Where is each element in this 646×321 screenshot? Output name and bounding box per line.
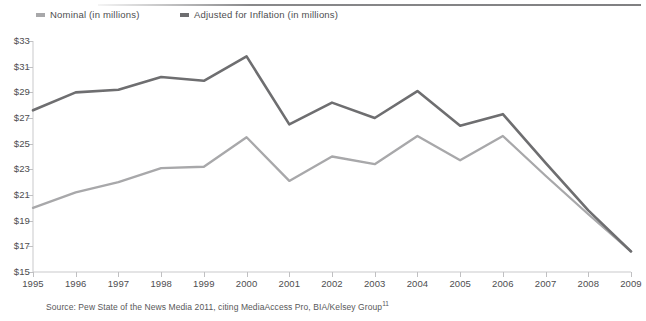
y-axis: $15$17$19$21$23$25$27$29$31$33 [0,0,30,321]
y-axis-tick-label: $31 [4,62,30,72]
y-axis-tick-label: $23 [4,164,30,174]
y-axis-tick-label: $15 [4,267,30,277]
y-axis-tick-label: $17 [4,241,30,251]
source-note-marker: 11 [382,300,389,307]
x-axis-tick-label: 1997 [98,278,138,289]
x-axis-tick-label: 2001 [269,278,309,289]
y-axis-tick-label: $27 [4,113,30,123]
x-axis-tick-label: 2009 [611,278,646,289]
x-axis-tick-label: 2006 [483,278,523,289]
x-axis-tick-label: 2007 [526,278,566,289]
series-line-nominal [33,136,631,252]
y-axis-tick-label: $29 [4,87,30,97]
series-line-adjusted [33,56,631,251]
x-axis-tick-label: 2005 [440,278,480,289]
x-axis-tick-label: 2004 [397,278,437,289]
x-axis-tick-label: 1999 [184,278,224,289]
y-axis-tick-label: $33 [4,36,30,46]
x-axis-tick-label: 1998 [141,278,181,289]
x-axis-tick-label: 2002 [312,278,352,289]
x-axis-tick-label: 2000 [227,278,267,289]
x-axis-tick-label: 2008 [568,278,608,289]
source-note-text: Source: Pew State of the News Media 2011… [46,302,382,312]
source-note: Source: Pew State of the News Media 2011… [46,300,389,312]
y-axis-tick-label: $19 [4,216,30,226]
x-axis-tick-label: 2003 [355,278,395,289]
y-axis-tick-label: $21 [4,190,30,200]
x-axis-tick-label: 1995 [13,278,53,289]
x-axis-tick-label: 1996 [56,278,96,289]
y-axis-tick-label: $25 [4,139,30,149]
